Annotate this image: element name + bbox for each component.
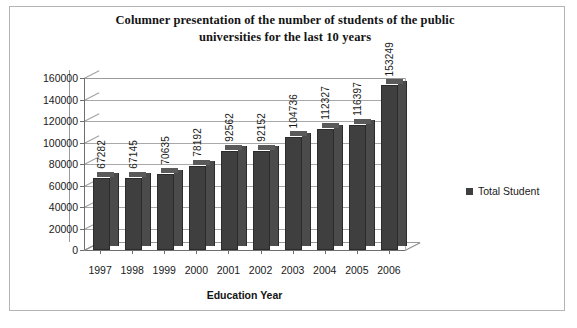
y-axis-tick-mark bbox=[80, 250, 84, 251]
bar-side-face bbox=[334, 125, 343, 246]
y-axis-tick-label: 140000 bbox=[22, 94, 78, 106]
chart-title-line-1: Columner presentation of the number of s… bbox=[115, 13, 454, 27]
y-axis-tick-label: 120000 bbox=[22, 115, 78, 127]
x-axis-tick-label: 2006 bbox=[372, 264, 406, 276]
bar-column bbox=[253, 151, 270, 250]
x-axis-tick-label: 1998 bbox=[115, 264, 149, 276]
bar-column bbox=[381, 85, 398, 250]
y-axis-tick-labels: 0200004000060000800001000001200001400001… bbox=[22, 78, 78, 250]
bar-column bbox=[349, 125, 366, 250]
bar-front-face bbox=[125, 178, 142, 250]
y-axis-tick-label: 40000 bbox=[22, 201, 78, 213]
bar-value-label: 104736 bbox=[288, 94, 299, 129]
x-axis-tick-label: 2005 bbox=[340, 264, 374, 276]
y-axis-tick-label: 80000 bbox=[22, 158, 78, 170]
x-axis-tick-label: 2001 bbox=[211, 264, 245, 276]
y-axis-tick-mark bbox=[80, 78, 84, 79]
bar-front-face bbox=[189, 166, 206, 250]
x-axis-tick-label: 2000 bbox=[179, 264, 213, 276]
y-axis-tick-mark bbox=[80, 229, 84, 230]
bar-front-face bbox=[349, 125, 366, 250]
bar-front-face bbox=[157, 174, 174, 250]
x-axis-tick-label: 2003 bbox=[276, 264, 310, 276]
bar-top-face bbox=[225, 145, 242, 150]
chart-title-line-2: universities for the last 10 years bbox=[199, 30, 371, 44]
y-axis-line bbox=[84, 78, 85, 250]
bar-column bbox=[221, 151, 238, 251]
bar-top-face bbox=[258, 145, 275, 150]
bar-side-face bbox=[110, 173, 119, 245]
legend: Total Student bbox=[466, 185, 539, 197]
legend-label-total-student: Total Student bbox=[478, 185, 539, 197]
bar-value-label: 70635 bbox=[160, 136, 171, 165]
bar-column bbox=[93, 178, 110, 250]
bar-top-face bbox=[322, 123, 339, 128]
x-axis-tick-label: 1997 bbox=[83, 264, 117, 276]
bar-front-face bbox=[93, 178, 110, 250]
x-axis-tick-mark bbox=[196, 250, 197, 254]
bar-value-label: 92562 bbox=[224, 113, 235, 142]
x-axis-tick-mark bbox=[325, 250, 326, 254]
bar-side-face bbox=[238, 146, 247, 246]
bar-side-face bbox=[206, 161, 215, 245]
bar-top-face bbox=[193, 160, 210, 165]
plot-area: 0200004000060000800001000001200001400001… bbox=[84, 78, 405, 250]
y-axis-tick-mark bbox=[80, 207, 84, 208]
bar-column bbox=[125, 178, 142, 250]
bar-value-label: 116397 bbox=[352, 82, 363, 116]
x-axis-title: Education Year bbox=[84, 289, 405, 301]
x-axis-tick-label: 2002 bbox=[244, 264, 278, 276]
bar-top-face bbox=[386, 79, 403, 84]
bar-top-face bbox=[129, 172, 146, 177]
bar-side-face bbox=[174, 170, 183, 246]
bar-top-face bbox=[290, 131, 307, 136]
bar-front-face bbox=[221, 151, 238, 251]
legend-swatch-icon bbox=[466, 188, 473, 195]
bar-value-label: 67145 bbox=[128, 140, 139, 169]
bar-value-label: 112327 bbox=[320, 86, 331, 120]
chart-title: Columner presentation of the number of s… bbox=[60, 12, 510, 46]
y-axis-tick-label: 160000 bbox=[22, 72, 78, 84]
y-axis-tick-mark bbox=[80, 164, 84, 165]
x-axis-tick-mark bbox=[293, 250, 294, 254]
x-axis-tick-mark bbox=[100, 250, 101, 254]
x-axis-tick-mark bbox=[261, 250, 262, 254]
bar-column bbox=[317, 129, 334, 250]
bar-side-face bbox=[302, 133, 311, 246]
bar-front-face bbox=[285, 137, 302, 250]
y-axis-tick-label: 20000 bbox=[22, 223, 78, 235]
x-axis-tick-label: 2004 bbox=[308, 264, 342, 276]
y-axis-tick-mark bbox=[80, 186, 84, 187]
bar-side-face bbox=[398, 81, 407, 246]
bar-top-face bbox=[97, 172, 114, 177]
bar-side-face bbox=[142, 173, 151, 245]
x-axis-tick-mark bbox=[357, 250, 358, 254]
bar-column bbox=[189, 166, 206, 250]
bar-column bbox=[285, 137, 302, 250]
bar-front-face bbox=[317, 129, 334, 250]
bar-front-face bbox=[381, 85, 398, 250]
y-axis-tick-label: 60000 bbox=[22, 180, 78, 192]
bar-side-face bbox=[366, 120, 375, 245]
bar-value-label: 67282 bbox=[96, 140, 107, 169]
y-axis-tick-mark bbox=[80, 100, 84, 101]
x-axis-tick-labels: 1997199819992000200120022003200420052006 bbox=[84, 256, 405, 272]
y-axis-tick-label: 0 bbox=[22, 244, 78, 256]
bar-value-label: 92152 bbox=[256, 113, 267, 142]
bar-top-face bbox=[354, 119, 371, 124]
y-axis-tick-label: 100000 bbox=[22, 137, 78, 149]
bar-front-face bbox=[253, 151, 270, 250]
bar-side-face bbox=[270, 146, 279, 245]
bar-value-label: 78192 bbox=[192, 128, 203, 157]
y-axis-tick-mark bbox=[80, 143, 84, 144]
x-axis-tick-mark bbox=[164, 250, 165, 254]
chart-image: Columner presentation of the number of s… bbox=[0, 0, 577, 328]
bar-value-label: 153249 bbox=[384, 42, 395, 77]
bar-column bbox=[157, 174, 174, 250]
x-axis-tick-label: 1999 bbox=[147, 264, 181, 276]
bar-top-face bbox=[161, 168, 178, 173]
x-axis-tick-mark bbox=[132, 250, 133, 254]
y-axis-tick-mark bbox=[80, 121, 84, 122]
x-axis-tick-mark bbox=[228, 250, 229, 254]
gridline bbox=[84, 78, 405, 79]
